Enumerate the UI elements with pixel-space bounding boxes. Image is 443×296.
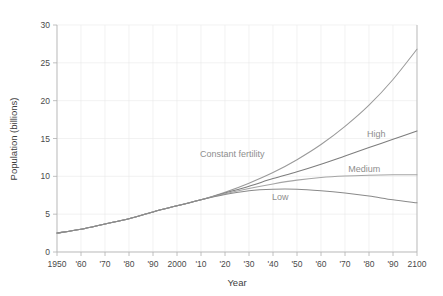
y-tick-label: 5 bbox=[45, 209, 50, 219]
series-label-high: High bbox=[367, 129, 386, 139]
y-tick-label: 10 bbox=[41, 171, 51, 181]
population-projection-chart: 051015202530 1950'60'70'80'902000'10'20'… bbox=[0, 0, 443, 296]
x-tick-label: '60 bbox=[75, 259, 86, 269]
x-tick-label: '50 bbox=[291, 259, 302, 269]
y-tick-label: 30 bbox=[41, 20, 51, 30]
x-tick-label: 2100 bbox=[408, 259, 427, 269]
y-tick-label: 20 bbox=[41, 96, 51, 106]
x-tick-label: '40 bbox=[267, 259, 278, 269]
series-label-constant-fertility: Constant fertility bbox=[200, 149, 265, 159]
x-tick-label: '10 bbox=[195, 259, 206, 269]
y-tick-label: 15 bbox=[41, 134, 51, 144]
y-tick-label: 0 bbox=[45, 247, 50, 257]
series-label-medium: Medium bbox=[348, 164, 380, 174]
x-tick-label: '80 bbox=[123, 259, 134, 269]
x-tick-label: '90 bbox=[387, 259, 398, 269]
y-axis-title: Population (billions) bbox=[8, 98, 19, 181]
x-tick-label: '70 bbox=[339, 259, 350, 269]
x-tick-label: '80 bbox=[363, 259, 374, 269]
x-tick-label: '20 bbox=[219, 259, 230, 269]
y-tick-label: 25 bbox=[41, 58, 51, 68]
chart-svg: 051015202530 1950'60'70'80'902000'10'20'… bbox=[0, 0, 443, 296]
x-axis-title: Year bbox=[227, 277, 246, 288]
x-tick-label: 2000 bbox=[168, 259, 187, 269]
x-tick-label: '90 bbox=[147, 259, 158, 269]
x-tick-label: 1950 bbox=[48, 259, 67, 269]
x-tick-label: '30 bbox=[243, 259, 254, 269]
x-tick-label: '60 bbox=[315, 259, 326, 269]
series-label-low: Low bbox=[272, 192, 289, 202]
x-tick-label: '70 bbox=[99, 259, 110, 269]
